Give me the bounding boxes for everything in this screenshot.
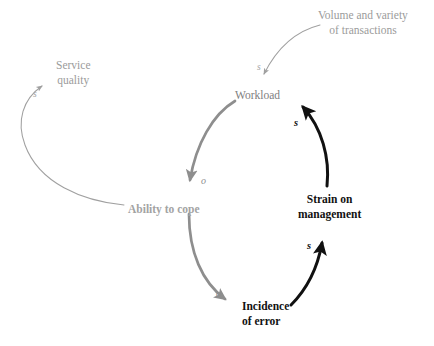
node-workload-line1: Workload xyxy=(235,88,280,103)
causal-loop-diagram: Workload --> Ability to cope --> Inciden… xyxy=(0,0,434,346)
edge-tag-strain-to-workload: s xyxy=(294,117,298,128)
edge-tag-incidence-to-strain: s xyxy=(307,240,311,251)
node-strain-line1: Strain on xyxy=(298,192,361,207)
edge-strain-to-workload xyxy=(303,107,328,186)
edge-tag-workload-to-ability: o xyxy=(201,175,206,186)
node-strain-on-management: Strain on management xyxy=(298,192,361,221)
node-strain-line2: management xyxy=(298,207,361,222)
node-ability-to-cope: Ability to cope xyxy=(128,202,200,217)
node-volume-line1: Volume and variety xyxy=(318,8,408,23)
edge-incidence-to-strain xyxy=(291,243,322,305)
edge-volume-to-workload xyxy=(264,25,320,74)
node-incidence-line1: Incidence xyxy=(242,299,289,314)
node-volume-line2: of transactions xyxy=(318,23,408,38)
node-volume-and-variety-of-transactions: Volume and variety of transactions xyxy=(318,8,408,37)
edge-ability-to-incidence xyxy=(189,214,225,299)
edge-tag-ability-to-incidence: o xyxy=(216,288,221,299)
node-service-quality: Service quality xyxy=(56,58,90,87)
edge-tag-volume-to-workload: s xyxy=(257,62,261,72)
node-workload: Workload xyxy=(235,88,280,103)
edge-tag-ability-to-service-quality: s xyxy=(33,89,37,99)
edge-ability-to-service-quality xyxy=(21,86,124,205)
edge-workload-to-ability xyxy=(190,101,235,180)
node-service-quality-line2: quality xyxy=(56,73,90,88)
node-ability-to-cope-line1: Ability to cope xyxy=(128,202,200,217)
node-service-quality-line1: Service xyxy=(56,58,90,73)
node-incidence-line2: of error xyxy=(242,314,289,329)
node-incidence-of-error: Incidence of error xyxy=(242,299,289,328)
